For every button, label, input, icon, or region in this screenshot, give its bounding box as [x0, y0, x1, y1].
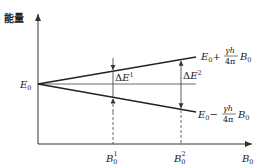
x-axis-label: B0 — [241, 153, 254, 166]
energy-splitting-diagram: 能量 B0 E0 ΔΔEE1 Δ — [0, 0, 264, 168]
lower-energy-line — [38, 84, 196, 112]
svg-text:B0: B0 — [237, 109, 250, 122]
svg-text:B0: B0 — [239, 51, 252, 64]
upper-line-label: E0+ γh 4π B0 — [200, 46, 252, 66]
svg-text:γh: γh — [225, 46, 235, 55]
svg-text:E0+: E0+ — [200, 51, 221, 64]
svg-text:γh: γh — [223, 104, 233, 113]
svg-text:4π: 4π — [225, 57, 235, 66]
svg-text:4π: 4π — [223, 115, 233, 124]
delta-e-2-label: ΔE2 — [183, 69, 202, 81]
y-axis-label: 能量 — [4, 12, 24, 24]
field-tick-1-label: B01 — [105, 150, 118, 166]
field-tick-2-label: B02 — [173, 150, 186, 166]
delta-e-1-label: ΔΔEE1 — [115, 71, 134, 83]
origin-energy-label: E0 — [19, 79, 31, 92]
svg-text:E0−: E0− — [197, 109, 218, 122]
lower-line-label: E0− γh 4π B0 — [197, 104, 250, 124]
